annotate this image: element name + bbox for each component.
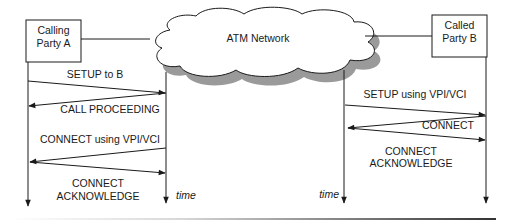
bottom-divider [10,218,496,220]
right-message-connect: CONNECT [348,116,486,131]
left-message-connect: CONNECT using VPI/VCI [30,133,166,162]
connect-ack-right-line1: CONNECT [385,145,438,157]
connect-ack-left-line1: CONNECT [72,177,125,189]
time-label-left: time [176,189,196,201]
called-party-line1: Called [445,19,475,31]
atm-network-cloud: ATM Network [156,7,375,76]
calling-party-line1: Calling [37,24,69,36]
calling-party-line2: Party A [37,37,71,49]
right-message-setup: SETUP using VPI/VCI [345,88,485,115]
connect-vpi-vci-label: CONNECT using VPI/VCI [40,133,160,145]
setup-vpi-vci-label: SETUP using VPI/VCI [363,88,466,100]
right-message-connect-ack: CONNECT ACKNOWLEDGE [348,128,485,169]
called-party-b-box: Called Party B [432,15,487,57]
called-party-line2: Party B [442,32,476,44]
time-label-right: time [319,188,339,200]
connect-ack-left-line2: ACKNOWLEDGE [57,190,140,202]
connect-ack-right-line2: ACKNOWLEDGE [370,157,453,169]
calling-party-a-box: Calling Party A [26,20,81,62]
call-proceeding-label: CALL PROCEEDING [60,103,159,115]
setup-to-b-label: SETUP to B [67,68,123,80]
connect-right-label: CONNECT [422,119,475,131]
network-label: ATM Network [227,32,291,44]
left-message-call-proceeding: CALL PROCEEDING [29,93,166,115]
left-message-connect-ack: CONNECT ACKNOWLEDGE [30,162,165,202]
atm-call-setup-diagram: ATM Network Calling Party A Called Party… [0,0,512,221]
left-message-setup: SETUP to B [28,68,165,93]
